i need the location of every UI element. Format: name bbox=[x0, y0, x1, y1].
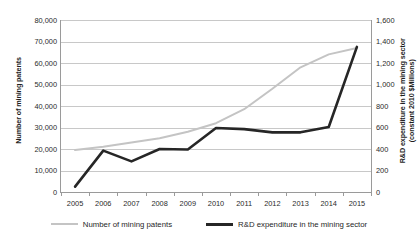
legend-swatch-rd-icon bbox=[206, 223, 233, 226]
right-axis-tick-label: 600 bbox=[376, 123, 418, 132]
legend-label-patents: Number of mining patents bbox=[83, 220, 172, 229]
x-axis-tick-mark bbox=[174, 192, 175, 196]
legend-label-rd-expenditure: R&D expenditure in the mining sector bbox=[238, 220, 367, 229]
x-axis-tick-mark bbox=[89, 192, 90, 196]
legend-item-rd-expenditure: R&D expenditure in the mining sector bbox=[206, 220, 367, 229]
left-axis-tick-label: 0 bbox=[11, 188, 57, 197]
x-axis-tick-mark bbox=[371, 192, 372, 196]
left-axis-tick-label: 10,000 bbox=[11, 166, 57, 175]
legend-item-patents: Number of mining patents bbox=[51, 220, 172, 229]
left-axis-tick-label: 50,000 bbox=[11, 80, 57, 89]
mining-patents-rd-chart: Number of mining patents R&D expenditure… bbox=[0, 0, 418, 237]
x-axis-tick-mark bbox=[230, 192, 231, 196]
x-axis-tick-mark bbox=[146, 192, 147, 196]
right-axis-tick-label: 400 bbox=[376, 145, 418, 154]
left-axis-tick-label: 70,000 bbox=[11, 37, 57, 46]
left-axis-tick-label: 30,000 bbox=[11, 123, 57, 132]
right-axis-tick-label: 1,000 bbox=[376, 80, 418, 89]
right-axis-tick-label: 1,200 bbox=[376, 59, 418, 68]
x-axis-tick-mark bbox=[286, 192, 287, 196]
right-axis-tick-label: 1,600 bbox=[376, 16, 418, 25]
left-axis-tick-label: 40,000 bbox=[11, 102, 57, 111]
right-axis-tick-label: 800 bbox=[376, 102, 418, 111]
legend-swatch-patents-icon bbox=[51, 223, 78, 225]
right-axis-tick-label: 1,400 bbox=[376, 37, 418, 46]
chart-legend: Number of mining patents R&D expenditure… bbox=[0, 215, 418, 233]
x-axis-tick-label: 2015 bbox=[340, 199, 374, 208]
left-axis-tick-label: 60,000 bbox=[11, 59, 57, 68]
rd-expenditure-series-line bbox=[75, 47, 357, 187]
x-axis-tick-mark bbox=[117, 192, 118, 196]
x-axis-tick-mark bbox=[315, 192, 316, 196]
x-axis-tick-mark bbox=[258, 192, 259, 196]
x-axis-tick-mark bbox=[202, 192, 203, 196]
right-axis-tick-label: 0 bbox=[376, 188, 418, 197]
right-axis-tick-label: 200 bbox=[376, 166, 418, 175]
left-axis-tick-label: 20,000 bbox=[11, 145, 57, 154]
x-axis-tick-mark bbox=[343, 192, 344, 196]
left-axis-tick-label: 80,000 bbox=[11, 16, 57, 25]
patents-series-line bbox=[75, 48, 357, 150]
x-axis-tick-mark bbox=[61, 192, 62, 196]
